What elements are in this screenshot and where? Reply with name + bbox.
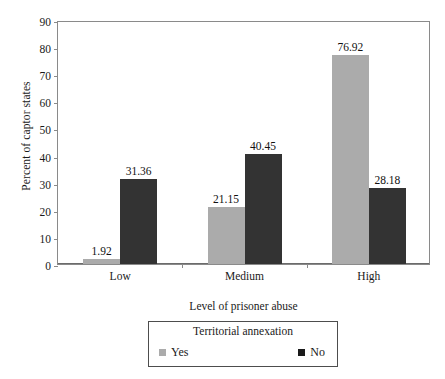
x-axis-tick-label-medium: Medium [225, 270, 264, 282]
legend: Territorial annexation Yes No [148, 321, 338, 367]
y-axis-tick-label: 0 [18, 260, 58, 272]
legend-swatch-yes-icon [159, 349, 166, 356]
bar-high-no[interactable]: 28.18 [369, 188, 406, 264]
legend-title: Territorial annexation [149, 325, 337, 337]
y-axis-tick-label: 90 [18, 16, 58, 28]
bar-medium-no[interactable]: 40.45 [245, 154, 282, 264]
legend-item-yes[interactable]: Yes [159, 345, 188, 360]
x-axis-separator-tick [307, 264, 308, 268]
x-axis-title: Level of prisoner abuse [57, 300, 430, 312]
plot-area: 0102030405060708090 1.9231.3621.1540.457… [57, 21, 430, 265]
x-axis-separator-tick [182, 264, 183, 268]
bar-value-label: 1.92 [92, 245, 112, 257]
bar-chart-figure: Percent of captor states 010203040506070… [0, 0, 445, 379]
y-axis-tick-label: 50 [18, 124, 58, 136]
bar-value-label: 21.15 [213, 193, 239, 205]
legend-label-no: No [310, 345, 325, 360]
legend-items: Yes No [157, 345, 329, 363]
x-axis-tick-label-high: High [357, 270, 380, 282]
bar-group: 76.9228.18 [332, 22, 406, 264]
legend-item-no[interactable]: No [298, 345, 325, 360]
legend-swatch-no-icon [298, 349, 305, 356]
bar-value-label: 31.36 [126, 165, 152, 177]
y-axis-tick-label: 80 [18, 43, 58, 55]
legend-label-yes: Yes [171, 345, 188, 360]
x-axis-tick-label-low: Low [110, 270, 131, 282]
bar-value-label: 76.92 [337, 41, 363, 53]
bar-value-label: 40.45 [250, 140, 276, 152]
bar-low-yes[interactable]: 1.92 [83, 259, 120, 264]
bar-group: 1.9231.36 [83, 22, 157, 264]
bar-medium-yes[interactable]: 21.15 [208, 207, 245, 264]
y-axis-tick-label: 60 [18, 97, 58, 109]
bar-low-no[interactable]: 31.36 [120, 179, 157, 264]
y-axis-tick-label: 20 [18, 206, 58, 218]
y-axis-tick-label: 10 [18, 233, 58, 245]
y-axis-tick-label: 70 [18, 70, 58, 82]
y-axis-tick-label: 30 [18, 179, 58, 191]
y-axis-tick-label: 40 [18, 152, 58, 164]
bar-value-label: 28.18 [374, 174, 400, 186]
bar-high-yes[interactable]: 76.92 [332, 55, 369, 264]
bar-group: 21.1540.45 [208, 22, 282, 264]
